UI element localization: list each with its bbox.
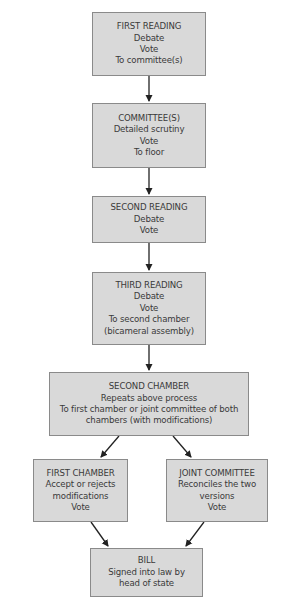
node-title: SECOND CHAMBER: [109, 381, 189, 392]
node-line: Repeats above process: [101, 393, 197, 404]
node-title: JOINT COMMITTEE: [179, 468, 254, 479]
node-first-reading: FIRST READING Debate Vote To committee(s…: [92, 12, 206, 76]
node-line: Debate: [134, 33, 164, 44]
legislative-process-flowchart: FIRST READING Debate Vote To committee(s…: [0, 0, 296, 614]
node-line: chambers (with modifications): [86, 415, 212, 426]
arrow-second-chamber-to-joint-committee: [173, 436, 191, 457]
node-line: modifications: [53, 491, 109, 502]
node-line: Signed into law by: [108, 567, 185, 578]
node-line: Vote: [71, 502, 90, 513]
node-title: FIRST CHAMBER: [47, 468, 115, 479]
arrow-first-chamber-to-bill: [91, 522, 108, 546]
node-line: (bicameral assembly): [104, 326, 194, 337]
node-title: FIRST READING: [117, 21, 181, 32]
node-line: Vote: [140, 44, 159, 55]
node-third-reading: THIRD READING Debate Vote To second cham…: [92, 272, 206, 345]
node-line: head of state: [119, 578, 174, 589]
node-joint-committee: JOINT COMMITTEE Reconciles the two versi…: [166, 459, 268, 522]
node-line: To second chamber: [109, 314, 190, 325]
node-title: BILL: [138, 555, 155, 566]
node-line: To floor: [134, 147, 164, 158]
node-line: Vote: [140, 225, 159, 236]
node-line: Debate: [134, 291, 164, 302]
node-first-chamber: FIRST CHAMBER Accept or rejects modifica…: [33, 459, 128, 522]
node-line: Debate: [134, 214, 164, 225]
node-line: Reconciles the two: [178, 479, 256, 490]
node-second-chamber: SECOND CHAMBER Repeats above process To …: [49, 372, 249, 436]
node-line: Vote: [208, 502, 227, 513]
node-line: Vote: [140, 136, 159, 147]
node-line: Detailed scrutiny: [114, 124, 185, 135]
arrow-second-chamber-to-first-chamber: [101, 436, 119, 457]
node-title: COMMITTEE(S): [118, 113, 180, 124]
node-title: SECOND READING: [111, 202, 188, 213]
node-second-reading: SECOND READING Debate Vote: [92, 196, 206, 243]
node-line: To first chamber or joint committee of b…: [60, 404, 238, 415]
node-line: versions: [200, 491, 235, 502]
node-committee: COMMITTEE(S) Detailed scrutiny Vote To f…: [92, 103, 206, 168]
node-line: Vote: [140, 303, 159, 314]
node-line: To committee(s): [115, 55, 182, 66]
node-title: THIRD READING: [115, 280, 182, 291]
arrow-joint-committee-to-bill: [186, 522, 204, 546]
node-line: Accept or rejects: [46, 479, 116, 490]
node-bill: BILL Signed into law by head of state: [90, 548, 203, 597]
